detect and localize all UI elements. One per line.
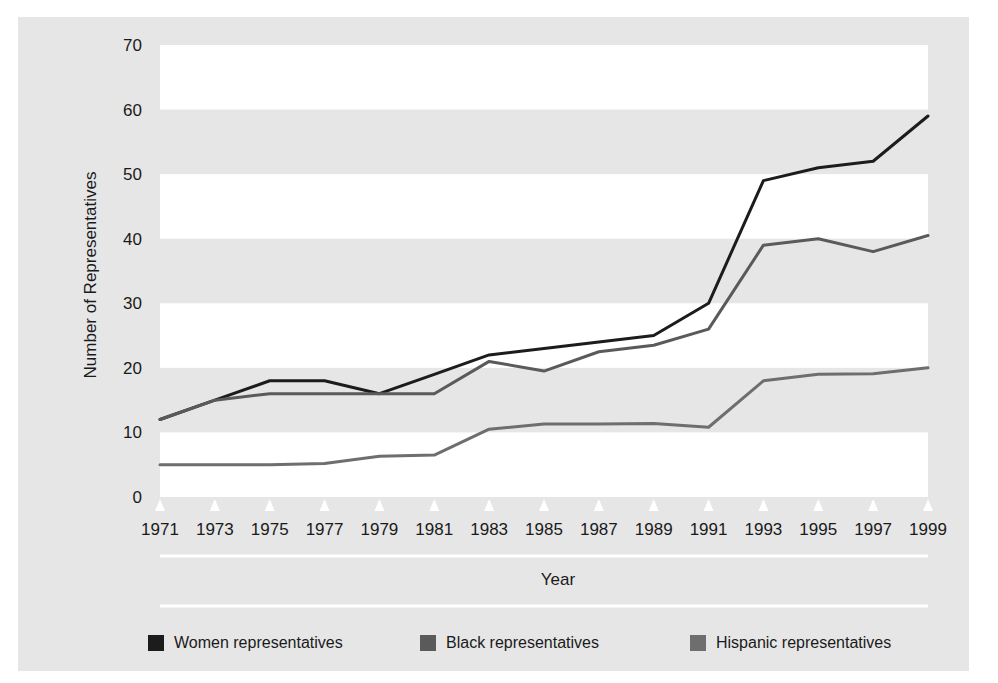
x-tick-marker-1971 (155, 499, 165, 511)
x-tick-label-1979: 1979 (361, 520, 399, 539)
y-tick-label-50: 50 (123, 165, 142, 184)
x-tick-marker-1981 (429, 499, 439, 511)
data-series-lines (160, 116, 928, 465)
legend-swatch-0 (148, 635, 164, 651)
y-tick-label-20: 20 (123, 359, 142, 378)
x-tick-marker-1983 (484, 499, 494, 511)
line-chart: 010203040506070 197119731975197719791981… (0, 0, 998, 683)
x-tick-marker-1991 (704, 499, 714, 511)
x-tick-label-1995: 1995 (799, 520, 837, 539)
background-band-1 (160, 174, 928, 239)
x-tick-label-1983: 1983 (470, 520, 508, 539)
y-axis-tick-labels: 010203040506070 (123, 36, 142, 507)
y-tick-label-60: 60 (123, 101, 142, 120)
y-tick-label-40: 40 (123, 230, 142, 249)
x-tick-label-1999: 1999 (909, 520, 947, 539)
y-tick-label-30: 30 (123, 294, 142, 313)
y-tick-label-10: 10 (123, 423, 142, 442)
x-tick-label-1993: 1993 (745, 520, 783, 539)
x-tick-label-1981: 1981 (415, 520, 453, 539)
x-tick-marker-1975 (265, 499, 275, 511)
x-tick-marker-1979 (374, 499, 384, 511)
x-tick-label-1989: 1989 (635, 520, 673, 539)
x-tick-label-1975: 1975 (251, 520, 289, 539)
background-band-2 (160, 303, 928, 368)
x-tick-marker-1995 (813, 499, 823, 511)
x-tick-label-1971: 1971 (141, 520, 179, 539)
x-tick-label-1997: 1997 (854, 520, 892, 539)
x-tick-marker-1997 (868, 499, 878, 511)
legend-swatch-2 (690, 635, 706, 651)
background-bands (160, 45, 928, 497)
x-tick-marker-1985 (539, 499, 549, 511)
x-axis-tick-marks (155, 499, 933, 511)
x-tick-label-1985: 1985 (525, 520, 563, 539)
x-tick-marker-1999 (923, 499, 933, 511)
chart-figure: 010203040506070 197119731975197719791981… (0, 0, 998, 683)
legend-swatch-1 (420, 635, 436, 651)
x-tick-marker-1973 (210, 499, 220, 511)
y-tick-label-70: 70 (123, 36, 142, 55)
x-axis-title: Year (541, 570, 576, 589)
legend-label-2: Hispanic representatives (716, 634, 891, 651)
x-tick-label-1991: 1991 (690, 520, 728, 539)
x-tick-label-1973: 1973 (196, 520, 234, 539)
legend-label-0: Women representatives (174, 634, 343, 651)
x-axis-tick-labels: 1971197319751977197919811983198519871989… (141, 520, 947, 539)
x-tick-marker-1987 (594, 499, 604, 511)
chart-legend: Women representativesBlack representativ… (148, 634, 891, 651)
y-axis-title: Number of Representatives (81, 172, 100, 379)
x-tick-marker-1989 (649, 499, 659, 511)
legend-label-1: Black representatives (446, 634, 599, 651)
y-tick-label-0: 0 (133, 488, 142, 507)
x-tick-marker-1993 (758, 499, 768, 511)
background-band-0 (160, 45, 928, 110)
x-tick-label-1987: 1987 (580, 520, 618, 539)
x-tick-label-1977: 1977 (306, 520, 344, 539)
x-tick-marker-1977 (320, 499, 330, 511)
